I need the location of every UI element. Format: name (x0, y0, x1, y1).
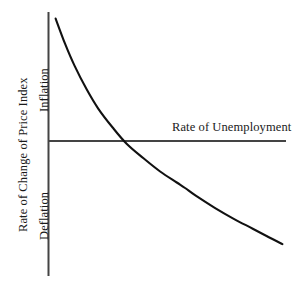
x-axis-label: Rate of Unemployment (172, 121, 291, 134)
chart-canvas (0, 0, 302, 289)
inflation-region-label: Inflation (38, 68, 51, 112)
y-axis-label: Rate of Change of Price Index (17, 77, 30, 232)
deflation-region-label: Deflation (38, 192, 51, 240)
phillips-curve-figure: Rate of Unemployment Rate of Change of P… (0, 0, 302, 289)
